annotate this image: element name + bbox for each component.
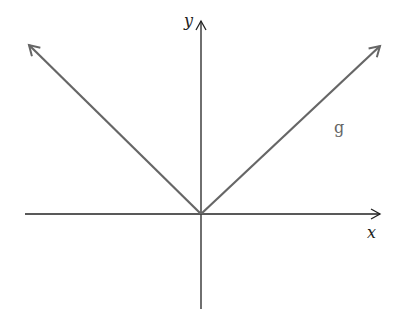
y-axis-label: y — [183, 11, 194, 30]
graph-right-branch — [201, 46, 380, 214]
graph-left-branch — [29, 45, 201, 214]
x-axis-label: x — [367, 223, 376, 242]
function-label: g — [334, 118, 344, 137]
graph-canvas: y x g — [0, 0, 398, 314]
